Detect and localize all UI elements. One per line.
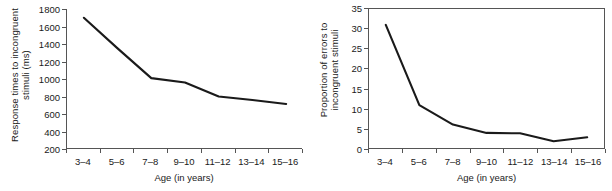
x-tick-label: 5–6 xyxy=(109,156,125,167)
x-tick-label: 3–4 xyxy=(377,156,393,167)
x-tick-mark xyxy=(470,149,471,153)
y-tick-label: 1600 xyxy=(16,21,60,32)
x-tick-mark xyxy=(503,149,504,153)
y-tick-mark xyxy=(364,129,368,130)
x-tick-label: 7–8 xyxy=(445,156,461,167)
x-tick-label: 13–14 xyxy=(541,156,567,167)
y-tick-label: 1800 xyxy=(16,4,60,15)
y-tick-mark xyxy=(62,9,66,10)
x-tick-mark xyxy=(133,149,134,153)
y-tick-label: 30 xyxy=(318,23,362,34)
y-tick-mark xyxy=(364,48,368,49)
y-tick-label: 5 xyxy=(318,123,362,134)
y-tick-mark xyxy=(62,97,66,98)
x-tick-mark xyxy=(605,149,606,153)
x-tick-mark xyxy=(66,149,67,153)
x-tick-label: 5–6 xyxy=(411,156,427,167)
x-tick-label: 15–16 xyxy=(575,156,601,167)
x-tick-mark xyxy=(268,149,269,153)
x-tick-mark xyxy=(571,149,572,153)
y-tick-mark xyxy=(62,27,66,28)
chart-panel-response-times: Response times to incongruent stimuli (m… xyxy=(0,0,306,191)
y-tick-label: 15 xyxy=(318,83,362,94)
x-tick-label: 9–10 xyxy=(476,156,497,167)
y-tick-label: 35 xyxy=(318,3,362,14)
line-series-proportion-errors xyxy=(369,9,604,148)
y-tick-label: 800 xyxy=(16,91,60,102)
y-tick-label: 1200 xyxy=(16,56,60,67)
x-tick-label: 7–8 xyxy=(142,156,158,167)
x-tick-label: 3–4 xyxy=(75,156,91,167)
y-tick-mark xyxy=(62,62,66,63)
line-series-response-times xyxy=(67,9,303,149)
y-tick-mark xyxy=(364,89,368,90)
x-tick-label: 15–16 xyxy=(272,156,298,167)
y-tick-label: 25 xyxy=(318,43,362,54)
figure-two-line-charts: Response times to incongruent stimuli (m… xyxy=(0,0,612,191)
x-tick-label: 9–10 xyxy=(173,156,194,167)
y-tick-mark xyxy=(364,109,368,110)
y-tick-label: 20 xyxy=(318,63,362,74)
x-tick-mark xyxy=(167,149,168,153)
y-tick-mark xyxy=(62,79,66,80)
x-tick-mark xyxy=(436,149,437,153)
y-tick-mark xyxy=(364,28,368,29)
x-tick-label: 11–12 xyxy=(205,156,231,167)
x-tick-mark xyxy=(235,149,236,153)
plot-area-left xyxy=(66,9,302,149)
y-tick-mark xyxy=(62,114,66,115)
plot-area-right xyxy=(368,8,605,149)
x-axis-title-right: Age (in years) xyxy=(368,172,605,183)
x-tick-mark xyxy=(402,149,403,153)
chart-panel-proportion-errors: Proportion of errors to incongruent stim… xyxy=(306,0,612,191)
y-tick-label: 1000 xyxy=(16,74,60,85)
y-tick-label: 600 xyxy=(16,109,60,120)
y-tick-mark xyxy=(364,68,368,69)
y-tick-mark xyxy=(62,132,66,133)
x-tick-mark xyxy=(302,149,303,153)
x-tick-label: 11–12 xyxy=(507,156,533,167)
x-tick-mark xyxy=(368,149,369,153)
y-tick-label: 200 xyxy=(16,144,60,155)
y-tick-label: 400 xyxy=(16,126,60,137)
y-tick-mark xyxy=(364,8,368,9)
x-tick-mark xyxy=(100,149,101,153)
x-tick-mark xyxy=(201,149,202,153)
y-tick-label: 1400 xyxy=(16,39,60,50)
x-tick-label: 13–14 xyxy=(238,156,264,167)
y-tick-mark xyxy=(62,44,66,45)
x-tick-mark xyxy=(537,149,538,153)
y-tick-label: 10 xyxy=(318,103,362,114)
y-tick-label: 0 xyxy=(318,144,362,155)
x-axis-title-left: Age (in years) xyxy=(66,172,302,183)
